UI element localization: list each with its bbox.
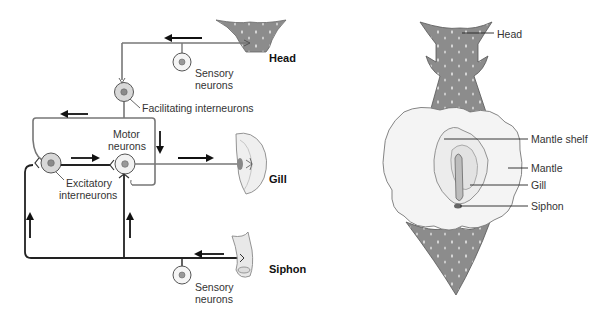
label-sensory-top-2: neurons: [195, 79, 233, 91]
label-sensory-top-1: Sensory: [195, 67, 234, 79]
label-sensory-bottom-1: Sensory: [195, 281, 234, 293]
label-mantle: Mantle: [531, 162, 563, 174]
label-excitatory-2: interneurons: [59, 189, 117, 201]
label-facilitating-interneurons: Facilitating interneurons: [142, 102, 253, 114]
label-aplysia-gill: Gill: [531, 179, 546, 191]
label-head: Head: [269, 52, 296, 64]
label-excitatory-1: Excitatory: [66, 177, 112, 189]
head-illustration: [216, 20, 286, 52]
neural-circuit: [25, 20, 286, 284]
label-mantle-shelf: Mantle shelf: [531, 133, 588, 145]
label-gill: Gill: [269, 173, 287, 185]
label-sensory-bottom-2: neurons: [195, 293, 233, 305]
label-siphon: Siphon: [269, 263, 306, 275]
aplysia-illustration: [383, 22, 528, 295]
label-aplysia-head: Head: [497, 28, 522, 40]
label-motor-2: neurons: [108, 140, 146, 152]
label-aplysia-siphon: Siphon: [531, 200, 564, 212]
label-motor-1: Motor: [113, 128, 140, 140]
